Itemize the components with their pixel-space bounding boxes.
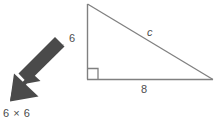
right-angle-marker-icon (88, 69, 99, 80)
label-leg-horizontal: 8 (141, 84, 147, 95)
geometry-figure (0, 0, 221, 123)
label-leg-vertical: 6 (69, 33, 75, 44)
diagram-canvas: 6 8 c 6 × 6 (0, 0, 221, 123)
arrow-down-left-icon (10, 35, 65, 102)
expression-text: 6 × 6 (3, 108, 30, 119)
triangle-hypotenuse (88, 4, 214, 80)
label-hypotenuse: c (147, 27, 153, 38)
